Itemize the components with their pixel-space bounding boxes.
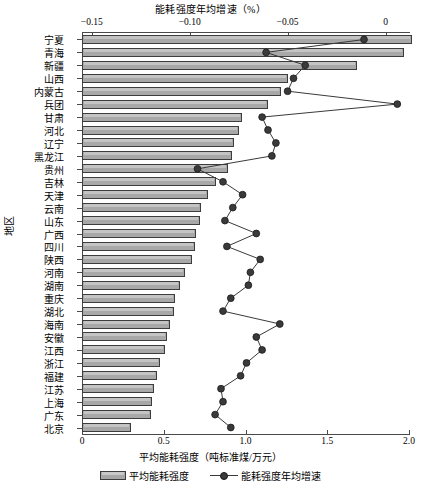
bar [82, 242, 195, 251]
y-tick [77, 376, 82, 377]
bar [82, 151, 232, 160]
line-marker [220, 398, 227, 405]
y-tick [77, 182, 82, 183]
y-tick [77, 117, 82, 118]
line-marker [227, 295, 234, 302]
bar [82, 164, 228, 173]
bottom-tick [164, 430, 165, 434]
line-marker [253, 334, 260, 341]
bar [82, 358, 160, 367]
bar [82, 100, 268, 109]
bottom-tick-label: 0 [80, 436, 85, 446]
y-tick [77, 104, 82, 105]
bar [82, 397, 152, 406]
line-marker [269, 153, 276, 160]
line-marker [245, 282, 252, 289]
bottom-tick [409, 430, 410, 434]
y-tick [77, 78, 82, 79]
top-tick-label: 0 [383, 17, 388, 27]
legend-bar-label: 平均能耗强度 [129, 471, 189, 482]
top-axis-line [82, 32, 410, 33]
chart-legend: 平均能耗强度 能耗强度年均增速 [0, 468, 421, 483]
line-marker [259, 347, 266, 354]
line-marker [224, 243, 231, 250]
y-tick [77, 208, 82, 209]
bar [82, 320, 170, 329]
bottom-axis-title: 平均能耗强度（吨标准煤/万元） [0, 449, 421, 464]
y-tick [77, 272, 82, 273]
line-marker [253, 230, 260, 237]
line-marker [247, 269, 254, 276]
y-tick [77, 143, 82, 144]
bar [82, 87, 281, 96]
bar [82, 229, 196, 238]
y-tick [77, 324, 82, 325]
bar [82, 255, 192, 264]
bar [82, 216, 200, 225]
bar [82, 281, 180, 290]
chart-page: 能耗强度年均增速（%） 地区 −0.15−0.10−0.050 00.51.01… [0, 0, 421, 490]
y-tick [77, 246, 82, 247]
y-tick [77, 363, 82, 364]
y-tick [77, 91, 82, 92]
line-marker [239, 191, 246, 198]
line-marker [220, 308, 227, 315]
bottom-axis-line [82, 434, 410, 435]
y-tick [77, 65, 82, 66]
bar [82, 307, 174, 316]
line-marker [284, 88, 291, 95]
category-labels: 宁夏青海新疆山西内蒙古兵团甘肃河北辽宁黑龙江贵州吉林天津云南山东广西四川陕西河南… [0, 0, 75, 490]
bar [82, 294, 175, 303]
bar [82, 384, 154, 393]
bar [82, 423, 131, 432]
line-marker [259, 114, 266, 121]
y-tick [77, 298, 82, 299]
y-tick [77, 156, 82, 157]
bottom-tick [246, 430, 247, 434]
y-tick [77, 415, 82, 416]
bar [82, 177, 216, 186]
bar [82, 203, 201, 212]
bottom-tick-label: 1.0 [240, 436, 252, 446]
y-tick [77, 221, 82, 222]
bar [82, 35, 412, 44]
bottom-tick [327, 430, 328, 434]
y-tick [77, 52, 82, 53]
y-tick [77, 195, 82, 196]
line-marker [290, 75, 297, 82]
top-tick-label: −0.10 [179, 17, 201, 27]
bar [82, 268, 185, 277]
bar [82, 410, 151, 419]
y-tick [77, 337, 82, 338]
legend-item-line: 能耗强度年均增速 [210, 468, 321, 483]
bar [82, 190, 208, 199]
legend-line-label: 能耗强度年均增速 [241, 471, 321, 482]
line-marker [220, 178, 227, 185]
line-marker [265, 127, 272, 134]
y-tick [77, 311, 82, 312]
bar [82, 74, 288, 83]
bar [82, 48, 404, 57]
line-marker [227, 424, 234, 431]
y-tick [77, 350, 82, 351]
y-tick [77, 234, 82, 235]
line-marker [243, 360, 250, 367]
legend-bar-swatch [100, 471, 126, 480]
line-path [198, 40, 398, 428]
line-marker [222, 217, 229, 224]
y-tick [77, 39, 82, 40]
y-tick [77, 169, 82, 170]
y-tick [77, 285, 82, 286]
legend-line-swatch [210, 471, 238, 481]
line-marker [218, 385, 225, 392]
line-marker [276, 321, 283, 328]
y-tick [77, 389, 82, 390]
bar [82, 345, 165, 354]
line-marker [212, 411, 219, 418]
y-tick [77, 259, 82, 260]
bar [82, 138, 234, 147]
bottom-tick-label: 0.5 [158, 436, 170, 446]
y-tick [77, 402, 82, 403]
line-marker [237, 372, 244, 379]
bar [82, 126, 239, 135]
